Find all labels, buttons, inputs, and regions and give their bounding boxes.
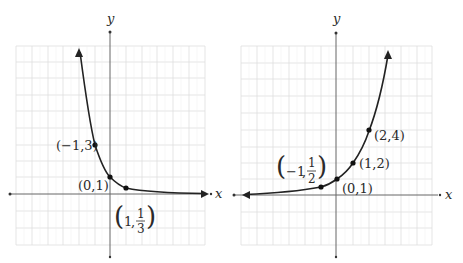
right-label-neg1-half: ( −1 , 1 2 ) bbox=[276, 151, 327, 186]
right-graph: y x ( −1 , 1 2 ) (0,1) (1,2) (2,4) bbox=[233, 11, 454, 258]
left-y-axis-bottom-dot bbox=[109, 256, 111, 258]
svg-text:1: 1 bbox=[308, 156, 316, 170]
left-x-axis-label: x bbox=[215, 186, 223, 201]
right-y-axis-top-dot bbox=[335, 32, 338, 35]
left-label-1-third: ( 1 , 1 3 ) bbox=[114, 201, 156, 236]
left-point-1-third bbox=[123, 185, 128, 190]
right-point-neg1-half bbox=[318, 184, 323, 189]
right-y-axis-bottom-dot bbox=[335, 256, 337, 258]
left-x-axis-start-dot bbox=[9, 193, 12, 196]
svg-text:,: , bbox=[302, 164, 306, 179]
right-curve-arrow-left-icon bbox=[242, 191, 250, 199]
left-y-axis-top-dot bbox=[109, 31, 112, 34]
right-label-1-2: (1,2) bbox=[359, 156, 390, 171]
right-point-1-2 bbox=[350, 160, 355, 165]
left-y-axis-label: y bbox=[106, 11, 115, 26]
left-graph: y x (−1,3) (0,1) ( 1 , 1 3 ) bbox=[9, 11, 224, 258]
right-x-axis-end-dot bbox=[439, 194, 441, 196]
left-label-neg1-3: (−1,3) bbox=[56, 138, 98, 153]
right-grid-minor bbox=[249, 46, 425, 245]
svg-text:): ) bbox=[146, 201, 156, 231]
left-curve-arrow-up-icon bbox=[75, 48, 83, 57]
svg-text:3: 3 bbox=[137, 222, 145, 236]
left-label-0-1: (0,1) bbox=[78, 178, 109, 193]
svg-text:2: 2 bbox=[308, 172, 316, 186]
svg-text:,: , bbox=[131, 214, 135, 229]
svg-text:(: ( bbox=[276, 151, 286, 181]
right-label-2-4: (2,4) bbox=[374, 128, 405, 143]
left-x-axis-end-dot bbox=[210, 193, 212, 195]
right-x-axis-label: x bbox=[445, 187, 453, 202]
svg-text:): ) bbox=[317, 151, 327, 181]
left-curve bbox=[80, 52, 205, 194]
right-x-axis-start-dot bbox=[233, 194, 236, 197]
graphs-figure: y x (−1,3) (0,1) ( 1 , 1 3 ) bbox=[0, 0, 463, 263]
svg-text:(: ( bbox=[114, 201, 124, 231]
right-point-0-1 bbox=[334, 176, 339, 181]
right-y-axis-label: y bbox=[332, 11, 341, 26]
right-point-2-4 bbox=[366, 127, 371, 132]
svg-text:1: 1 bbox=[137, 207, 145, 221]
right-label-0-1: (0,1) bbox=[342, 181, 373, 196]
